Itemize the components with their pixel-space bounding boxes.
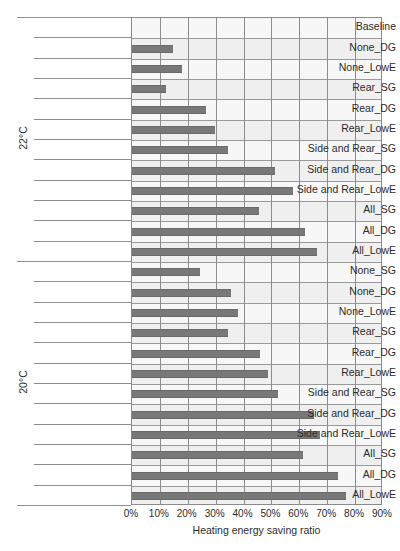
- y-axis-label: Side and Rear_SG: [272, 387, 400, 398]
- horizontal-gridline: [132, 242, 381, 243]
- x-tick-label: 90%: [362, 508, 400, 519]
- group-separator-line: [17, 17, 131, 18]
- y-axis-label: None_LowE: [272, 62, 400, 73]
- bar: [132, 268, 200, 276]
- horizontal-gridline: [132, 262, 381, 263]
- group-label-22c: 22°C: [17, 123, 29, 153]
- y-axis-tick-line: [34, 383, 131, 384]
- horizontal-gridline: [132, 465, 381, 466]
- y-axis-label: All_SG: [272, 448, 400, 459]
- group-separator-line: [17, 505, 131, 506]
- horizontal-gridline: [132, 201, 381, 202]
- y-axis-label: All_LowE: [272, 245, 400, 256]
- horizontal-gridline: [132, 79, 381, 80]
- y-axis-tick-line: [34, 444, 131, 445]
- y-axis-tick-line: [34, 119, 131, 120]
- y-axis-tick-line: [34, 139, 131, 140]
- y-axis-label: None_DG: [272, 286, 400, 297]
- y-axis-tick-line: [34, 78, 131, 79]
- bar: [132, 289, 231, 297]
- y-axis-tick-line: [34, 98, 131, 99]
- y-axis-tick-line: [34, 302, 131, 303]
- horizontal-gridline: [132, 221, 381, 222]
- y-axis-label: Baseline: [272, 21, 400, 32]
- y-axis-label: Side and Rear_LowE: [272, 184, 400, 195]
- bar: [132, 45, 173, 53]
- y-axis-tick-line: [34, 37, 131, 38]
- y-axis-tick-line: [34, 403, 131, 404]
- y-axis-tick-line: [34, 180, 131, 181]
- horizontal-gridline: [132, 181, 381, 182]
- horizontal-gridline: [132, 343, 381, 344]
- bar: [132, 350, 260, 358]
- horizontal-gridline: [132, 425, 381, 426]
- x-axis-title: Heating energy saving ratio: [131, 524, 382, 536]
- y-axis-label: All_DG: [272, 469, 400, 480]
- horizontal-gridline: [132, 140, 381, 141]
- y-axis-label: All_DG: [272, 225, 400, 236]
- y-axis-tick-line: [34, 58, 131, 59]
- horizontal-gridline: [132, 59, 381, 60]
- y-axis-label: None_DG: [272, 42, 400, 53]
- horizontal-gridline: [132, 404, 381, 405]
- y-axis-label: None_LowE: [272, 306, 400, 317]
- y-axis-tick-line: [34, 281, 131, 282]
- horizontal-gridline: [132, 282, 381, 283]
- horizontal-gridline: [132, 99, 381, 100]
- horizontal-gridline: [132, 445, 381, 446]
- y-axis-label: Side and Rear_LowE: [272, 428, 400, 439]
- y-axis-label: All_LowE: [272, 489, 400, 500]
- y-axis-tick-line: [34, 424, 131, 425]
- y-axis-tick-line: [34, 159, 131, 160]
- y-axis-tick-line: [34, 220, 131, 221]
- y-axis-label: Side and Rear_SG: [272, 143, 400, 154]
- y-axis-tick-line: [34, 241, 131, 242]
- group-separator-line: [17, 261, 131, 262]
- chart-root: BaselineNone_DGNone_LowERear_SGRear_DGRe…: [0, 0, 400, 551]
- y-axis-label: All_SG: [272, 204, 400, 215]
- y-axis-label: Rear_LowE: [272, 367, 400, 378]
- horizontal-gridline: [132, 364, 381, 365]
- y-axis-tick-line: [34, 342, 131, 343]
- bar: [132, 65, 182, 73]
- y-axis-label: Rear_DG: [272, 347, 400, 358]
- horizontal-gridline: [132, 38, 381, 39]
- y-axis-tick-line: [34, 200, 131, 201]
- y-axis-label: Side and Rear_DG: [272, 164, 400, 175]
- bar: [132, 126, 215, 134]
- bar: [132, 207, 259, 215]
- horizontal-gridline: [132, 486, 381, 487]
- y-axis-label: Rear_SG: [272, 82, 400, 93]
- y-axis-tick-line: [34, 363, 131, 364]
- horizontal-gridline: [132, 160, 381, 161]
- bar: [132, 309, 238, 317]
- group-label-20c: 20°C: [17, 367, 29, 397]
- bar: [132, 390, 278, 398]
- y-axis-tick-line: [34, 322, 131, 323]
- bar: [132, 146, 228, 154]
- horizontal-gridline: [132, 303, 381, 304]
- bar: [132, 167, 275, 175]
- y-axis-tick-line: [34, 464, 131, 465]
- y-axis-label: Rear_SG: [272, 326, 400, 337]
- y-axis-label: Rear_DG: [272, 103, 400, 114]
- horizontal-gridline: [132, 120, 381, 121]
- bar: [132, 187, 293, 195]
- bar: [132, 329, 228, 337]
- horizontal-gridline: [132, 384, 381, 385]
- y-axis-label: Rear_LowE: [272, 123, 400, 134]
- bar: [132, 106, 206, 114]
- horizontal-gridline: [132, 323, 381, 324]
- y-axis-tick-line: [34, 485, 131, 486]
- bar: [132, 370, 268, 378]
- y-axis-label: None_SG: [272, 265, 400, 276]
- y-axis-label: Side and Rear_DG: [272, 408, 400, 419]
- bar: [132, 85, 166, 93]
